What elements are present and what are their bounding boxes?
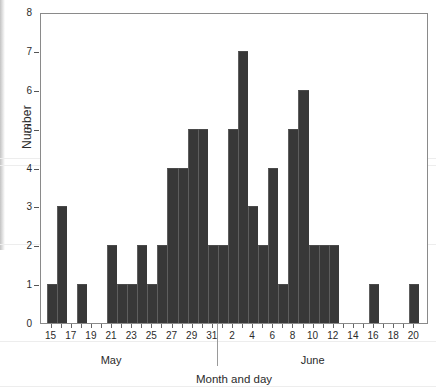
x-tick-mark <box>212 324 213 328</box>
x-tick-mark <box>222 324 223 328</box>
x-tick-label: 12 <box>322 330 344 341</box>
bar <box>409 284 419 323</box>
x-tick-mark <box>303 324 304 328</box>
bar <box>369 284 379 323</box>
bar <box>278 284 288 323</box>
x-tick-mark <box>313 324 314 328</box>
x-tick-mark <box>373 324 374 328</box>
x-tick-label: 14 <box>342 330 364 341</box>
x-tick-mark <box>282 324 283 328</box>
bar <box>188 129 198 323</box>
x-tick-label: 6 <box>261 330 283 341</box>
x-tick-mark <box>403 324 404 328</box>
bar <box>157 245 167 323</box>
x-tick-label: 23 <box>120 330 142 341</box>
bar <box>137 245 147 323</box>
x-tick-mark <box>91 324 92 328</box>
bar <box>309 245 319 323</box>
x-tick-label: 27 <box>161 330 183 341</box>
bar <box>238 51 248 323</box>
bar <box>127 284 137 323</box>
bar <box>329 245 339 323</box>
y-tick-mark <box>34 285 39 286</box>
month-label-june: June <box>283 354 343 366</box>
x-tick-label: 29 <box>181 330 203 341</box>
x-tick-label: 15 <box>40 330 62 341</box>
y-tick-mark <box>34 52 39 53</box>
bar <box>218 245 228 323</box>
y-tick-mark <box>34 169 39 170</box>
bar <box>147 284 157 323</box>
x-axis-title: Month and day <box>40 373 428 385</box>
y-tick-label: 3 <box>6 202 32 212</box>
x-tick-mark <box>111 324 112 328</box>
x-tick-mark <box>363 324 364 328</box>
y-tick-label: 4 <box>6 164 32 174</box>
x-tick-mark <box>151 324 152 328</box>
bar <box>268 168 278 324</box>
y-tick-label: 5 <box>6 125 32 135</box>
x-tick-mark <box>272 324 273 328</box>
x-tick-label: 18 <box>382 330 404 341</box>
histogram-figure: Number 012345678 Month and day 151719212… <box>0 0 436 389</box>
bar <box>77 284 87 323</box>
x-tick-mark <box>141 324 142 328</box>
bar <box>198 129 208 323</box>
x-tick-mark <box>343 324 344 328</box>
bar <box>117 284 127 323</box>
x-tick-mark <box>71 324 72 328</box>
month-label-may: May <box>81 354 141 366</box>
bar <box>167 168 177 324</box>
bar <box>208 245 218 323</box>
bar <box>298 90 308 323</box>
y-tick-label: 2 <box>6 241 32 251</box>
y-tick-mark <box>34 130 39 131</box>
x-tick-mark <box>353 324 354 328</box>
x-tick-mark <box>51 324 52 328</box>
x-tick-mark <box>192 324 193 328</box>
x-tick-mark <box>262 324 263 328</box>
plot-area <box>40 13 428 324</box>
x-tick-mark <box>232 324 233 328</box>
x-tick-label: 20 <box>402 330 424 341</box>
bar <box>107 245 117 323</box>
bar <box>57 206 67 323</box>
bars-layer <box>41 14 427 323</box>
x-tick-label: 17 <box>60 330 82 341</box>
x-tick-mark <box>292 324 293 328</box>
x-tick-label: 4 <box>241 330 263 341</box>
x-tick-mark <box>172 324 173 328</box>
x-tick-mark <box>61 324 62 328</box>
y-tick-mark <box>34 207 39 208</box>
month-divider <box>217 324 218 366</box>
x-tick-mark <box>81 324 82 328</box>
x-tick-mark <box>413 324 414 328</box>
x-tick-label: 16 <box>362 330 384 341</box>
x-tick-label: 25 <box>140 330 162 341</box>
x-tick-mark <box>131 324 132 328</box>
x-tick-label: 31 <box>201 330 223 341</box>
y-tick-label: 8 <box>6 8 32 18</box>
bar <box>319 245 329 323</box>
x-tick-mark <box>333 324 334 328</box>
bar <box>288 129 298 323</box>
x-tick-mark <box>161 324 162 328</box>
x-axis: Month and day 15171921232527293124681012… <box>40 324 428 389</box>
y-tick-label: 7 <box>6 47 32 57</box>
x-tick-mark <box>182 324 183 328</box>
x-tick-mark <box>393 324 394 328</box>
x-tick-mark <box>383 324 384 328</box>
x-tick-mark <box>242 324 243 328</box>
bar <box>248 206 258 323</box>
x-tick-mark <box>323 324 324 328</box>
x-tick-mark <box>202 324 203 328</box>
y-tick-label: 1 <box>6 280 32 290</box>
x-tick-mark <box>101 324 102 328</box>
bar <box>47 284 57 323</box>
bar <box>228 129 238 323</box>
bar <box>178 168 188 324</box>
y-tick-mark <box>34 246 39 247</box>
x-tick-label: 10 <box>302 330 324 341</box>
y-tick-label: 0 <box>6 319 32 329</box>
x-tick-mark <box>121 324 122 328</box>
